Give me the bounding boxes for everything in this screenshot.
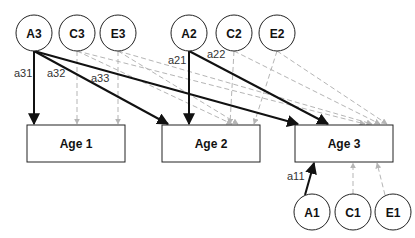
path-E1-age3 xyxy=(377,163,385,195)
solid-paths xyxy=(34,51,328,195)
node-A3-label: A3 xyxy=(26,27,42,41)
node-E1: E1 xyxy=(375,194,411,230)
label-a32: a32 xyxy=(47,67,65,79)
path-diagram: a31 a32 a33 a21 a22 a11 Age 1 Age 2 Age … xyxy=(0,0,415,238)
path-C2-age2 xyxy=(230,51,234,124)
label-a31: a31 xyxy=(14,67,32,79)
path-C3-age3 xyxy=(77,51,365,124)
box-age1-label: Age 1 xyxy=(60,137,93,151)
node-C3-label: C3 xyxy=(69,27,85,41)
node-A2-label: A2 xyxy=(181,27,197,41)
node-E2: E2 xyxy=(259,15,295,51)
path-E3-age3 xyxy=(118,51,372,124)
box-age2-label: Age 2 xyxy=(195,137,228,151)
node-E3: E3 xyxy=(100,15,136,51)
node-E1-label: E1 xyxy=(386,206,401,220)
label-a11: a11 xyxy=(287,170,305,182)
node-C1-label: C1 xyxy=(345,206,361,220)
label-a21: a21 xyxy=(168,54,186,66)
node-E2-label: E2 xyxy=(270,27,285,41)
box-age3: Age 3 xyxy=(295,125,393,162)
box-age3-label: Age 3 xyxy=(328,137,361,151)
label-a33: a33 xyxy=(91,72,109,84)
box-age1: Age 1 xyxy=(27,125,125,162)
node-A3: A3 xyxy=(16,15,52,51)
path-A1-age3 xyxy=(305,163,314,195)
label-a22: a22 xyxy=(207,48,225,60)
node-A1: A1 xyxy=(294,194,330,230)
node-C2: C2 xyxy=(216,15,252,51)
node-C2-label: C2 xyxy=(226,27,242,41)
box-age2: Age 2 xyxy=(162,125,260,162)
node-A1-label: A1 xyxy=(304,206,320,220)
node-C1: C1 xyxy=(335,194,371,230)
node-C3: C3 xyxy=(59,15,95,51)
path-E2-age3 xyxy=(277,51,387,124)
node-A2: A2 xyxy=(171,15,207,51)
node-E3-label: E3 xyxy=(111,27,126,41)
